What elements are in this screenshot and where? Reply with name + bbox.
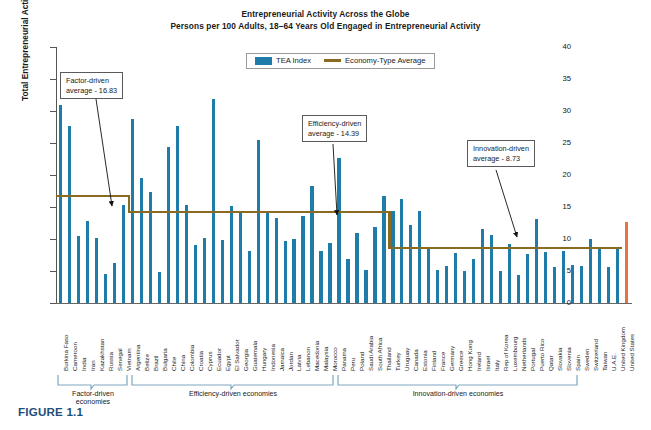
- bar-uruguay: [400, 199, 403, 303]
- x-label-slovakia: Slovakia: [557, 348, 563, 371]
- efficiency-driven-callout: Efficiency-driven average - 14.39: [302, 115, 367, 142]
- x-label-kazakhstan: Kazakhstan: [99, 339, 105, 371]
- x-label-italy: Italy: [494, 360, 500, 371]
- x-label-portugal: Portugal: [530, 348, 536, 371]
- bar-u-a-e-: [607, 267, 610, 303]
- x-label-cyprus: Cyprus: [207, 351, 213, 371]
- x-label-russia: Russia: [108, 352, 114, 371]
- x-label-rep-of-korea: Rep of Korea: [503, 335, 509, 371]
- innovation-driven-callout-line2: average - 8.73: [473, 154, 529, 164]
- bar-indonesia: [266, 213, 269, 303]
- bar-slovakia: [553, 267, 556, 303]
- bar-egypt: [221, 240, 224, 303]
- x-label-el-salvador: El Salvador: [234, 339, 240, 371]
- bracket-label-factor: Factor-driven economies: [56, 390, 130, 406]
- bar-india: [77, 236, 80, 303]
- x-label-india: India: [81, 358, 87, 371]
- bar-senegal: [113, 263, 116, 303]
- bar-united-kingdom: [616, 247, 619, 303]
- y-tick-0: [50, 303, 56, 304]
- bar-hungary: [257, 140, 260, 303]
- bar-chile: [167, 147, 170, 303]
- bar-finland: [427, 247, 430, 303]
- x-label-spain: Spain: [575, 355, 581, 371]
- bar-georgia: [239, 211, 242, 303]
- bar-china: [176, 126, 179, 303]
- x-label-malaysia: Malaysia: [323, 347, 329, 371]
- x-label-turkey: Turkey: [395, 352, 401, 371]
- x-label-israel: Israel: [485, 356, 491, 371]
- x-label-luxembourg: Luxembourg: [512, 337, 518, 371]
- bar-kazakhstan: [95, 238, 98, 303]
- x-label-belize: Belize: [144, 354, 150, 371]
- bar-france: [436, 270, 439, 303]
- x-label-egypt: Egypt: [225, 355, 231, 371]
- x-label-jordan: Jordan: [288, 352, 294, 371]
- bar-saudi-arabia: [364, 270, 367, 303]
- x-label-lebanon: Lebanon: [305, 347, 311, 371]
- bar-malaysia: [319, 251, 322, 303]
- factor-driven-callout: Factor-driven average - 16.83: [60, 72, 123, 99]
- x-label-united-states: United States: [629, 334, 635, 371]
- bar-israel: [481, 229, 484, 303]
- x-label-u-a-e-: U.A.E.: [611, 353, 617, 371]
- bar-united-states: [625, 222, 628, 303]
- bar-hong-kong: [463, 271, 466, 303]
- x-label-hungary: Hungary: [261, 348, 267, 371]
- chart-title-block: Entrepreneurial Activity Across the Glob…: [0, 8, 651, 32]
- bar-puerto-rico: [535, 219, 538, 303]
- bar-colombia: [185, 205, 188, 303]
- bar-jamaica: [275, 218, 278, 303]
- bar-lebanon: [301, 216, 304, 303]
- x-label-puerto-rico: Puerto Rico: [539, 339, 545, 371]
- efficiency-driven-callout-line1: Efficiency-driven: [308, 119, 361, 129]
- x-axis-category-labels: Burkina FasoCameroonIndiaIranKazakhstanR…: [56, 305, 632, 373]
- x-label-estonia: Estonia: [422, 350, 428, 371]
- bar-vietnam: [122, 205, 125, 303]
- bar-jordan: [284, 241, 287, 303]
- figure-caption: FIGURE 1.1: [18, 405, 83, 418]
- x-label-poland: Poland: [359, 352, 365, 371]
- x-label-peru: Peru: [350, 358, 356, 371]
- x-label-croatia: Croatia: [198, 351, 204, 371]
- innovation-driven-callout-line1: Innovation-driven: [473, 144, 529, 154]
- x-label-vietnam: Vietnam: [126, 348, 132, 371]
- x-label-hong-kong: Hong Kong: [467, 340, 473, 371]
- bar-morocco: [328, 243, 331, 303]
- x-label-morocco: Morocco: [332, 347, 338, 371]
- x-label-chile: Chile: [171, 357, 177, 371]
- x-label-qatar: Qatar: [548, 356, 554, 371]
- bar-poland: [355, 233, 358, 303]
- x-label-slovenia: Slovenia: [566, 347, 572, 371]
- bar-taiwan: [598, 247, 601, 303]
- x-label-germany: Germany: [449, 346, 455, 371]
- x-label-guatemala: Guatemala: [252, 341, 258, 371]
- x-label-south-africa: South Africa: [377, 338, 383, 371]
- x-label-uruguay: Uruguay: [404, 348, 410, 371]
- bar-el-salvador: [230, 206, 233, 303]
- economy-group-brackets: Factor-driven economies Efficiency-drive…: [56, 373, 632, 403]
- innovation-driven-callout: Innovation-driven average - 8.73: [467, 140, 535, 167]
- x-label-taiwan: Taiwan: [602, 352, 608, 371]
- bar-peru: [346, 259, 349, 303]
- x-label-bulgaria: Bulgaria: [162, 348, 168, 371]
- bar-cameroon: [68, 126, 71, 303]
- bar-qatar: [544, 252, 547, 303]
- x-label-georgia: Georgia: [243, 349, 249, 371]
- bar-rep-of-korea: [499, 271, 502, 303]
- x-label-panama: Panama: [341, 348, 347, 371]
- x-label-greece: Greece: [458, 351, 464, 371]
- x-label-iran: Iran: [90, 360, 96, 371]
- bar-sweden: [580, 266, 583, 303]
- bar-brazil: [149, 192, 152, 303]
- x-label-jamaica: Jamaica: [279, 348, 285, 371]
- average-connector-innovation: [388, 211, 390, 249]
- x-label-switzerland: Switzerland: [593, 339, 599, 371]
- bar-italy: [490, 235, 493, 303]
- bar-bulgaria: [158, 272, 161, 303]
- x-label-thailand: Thailand: [386, 347, 392, 371]
- bar-burkina-faso: [59, 105, 62, 303]
- bar-series: [56, 47, 631, 303]
- chart-subtitle: Persons per 100 Adults, 18–64 Years Old …: [0, 20, 651, 32]
- chart-title: Entrepreneurial Activity Across the Glob…: [0, 8, 651, 20]
